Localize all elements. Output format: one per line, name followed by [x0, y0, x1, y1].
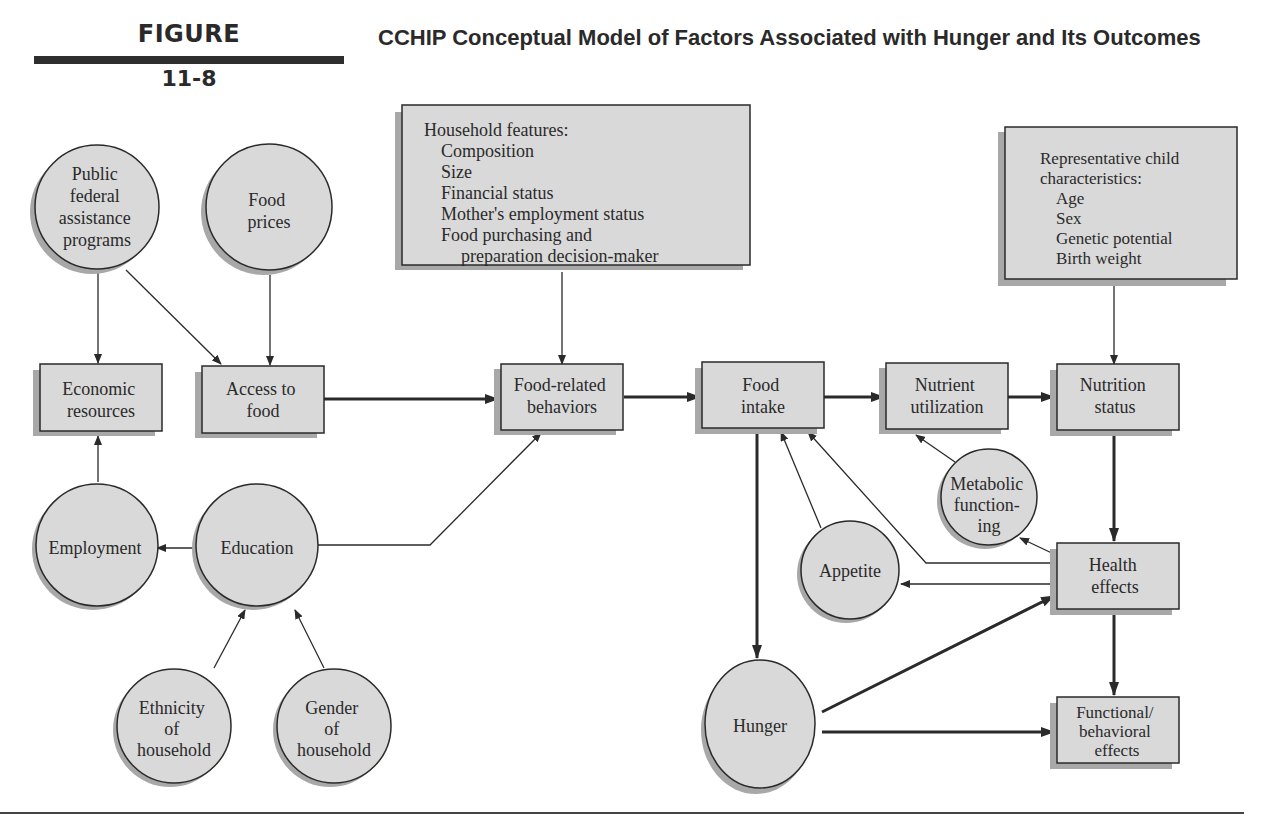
- edge-appetite-to-food-intake: [781, 432, 821, 528]
- node-education: Education: [192, 484, 318, 610]
- node-economic-resources: Economic resources: [33, 364, 162, 436]
- edge-public-assistance-to-access-to-food: [126, 270, 221, 364]
- node-access-to-food: Access to food: [195, 366, 324, 438]
- node-household-features: Household features: Composition Size Fin…: [395, 105, 750, 270]
- svg-text:Appetite: Appetite: [819, 561, 881, 581]
- edge-gender-to-education: [295, 610, 324, 668]
- node-hunger: Hunger: [701, 660, 815, 794]
- node-child-characteristics: Representative child characteristics: Ag…: [998, 127, 1237, 286]
- node-nutrient-utilization: Nutrient utilization: [879, 363, 1008, 434]
- node-metabolic-functioning: Metabolic function- ing: [937, 449, 1037, 549]
- edge-education-to-food-related-behaviors: [308, 433, 541, 545]
- svg-text:Hunger: Hunger: [733, 716, 787, 736]
- node-health-effects: Health effects: [1050, 543, 1179, 615]
- node-public-assistance: Public federal assistance programs: [30, 145, 159, 274]
- bottom-rule: [0, 812, 1244, 814]
- node-appetite: Appetite: [797, 521, 899, 623]
- edge-metabolic-to-nutrient-utilization: [916, 435, 955, 462]
- node-food-prices: Food prices: [201, 144, 332, 275]
- svg-text:Employment: Employment: [49, 538, 142, 558]
- conceptual-model-diagram: Public federal assistance programs Food …: [0, 0, 1262, 831]
- node-functional-effects: Functional/ behavioral effects: [1050, 697, 1179, 769]
- node-food-related-behaviors: Food-related behaviors: [494, 364, 623, 435]
- node-nutrition-status: Nutrition status: [1050, 364, 1179, 436]
- svg-text:Education: Education: [221, 538, 294, 558]
- node-gender: Gender of household: [273, 669, 391, 787]
- node-ethnicity: Ethnicity of household: [113, 669, 231, 787]
- node-employment: Employment: [32, 484, 158, 610]
- node-food-intake: Food intake: [695, 362, 824, 434]
- edge-ethnicity-to-education: [214, 610, 245, 668]
